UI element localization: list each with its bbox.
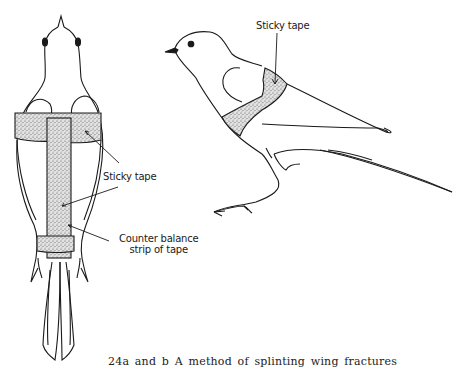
tape-body-band bbox=[222, 68, 287, 136]
figure-caption: 24a and b A method of splinting wing fra… bbox=[108, 355, 397, 368]
label-sticky-tape-a: Sticky tape bbox=[103, 171, 156, 182]
figure-illustration bbox=[0, 0, 470, 386]
tape-counter-balance bbox=[37, 236, 74, 253]
bird-side-view bbox=[165, 32, 452, 216]
label-sticky-tape-b: Sticky tape bbox=[256, 20, 309, 31]
label-counter-balance: Counter balance strip of tape bbox=[119, 233, 199, 255]
label-counter-balance-line2: strip of tape bbox=[119, 244, 199, 255]
label-counter-balance-line1: Counter balance bbox=[119, 233, 199, 244]
